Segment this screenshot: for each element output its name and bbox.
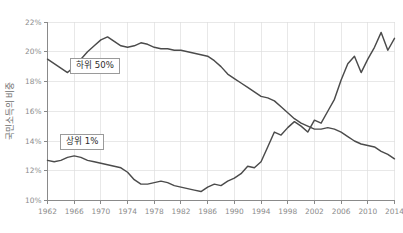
y-tick-label: 14%	[25, 137, 41, 146]
y-tick-label: 16%	[25, 107, 41, 116]
x-tick-label: 1962	[38, 207, 57, 216]
y-tick-label: 10%	[25, 196, 41, 205]
x-tick-label: 1994	[252, 207, 271, 216]
y-tick-label: 20%	[25, 47, 41, 56]
series-lines-group	[48, 32, 395, 191]
x-tick-label: 1970	[91, 207, 110, 216]
x-tick-label: 1974	[118, 207, 137, 216]
x-tick-label: 2006	[332, 207, 351, 216]
x-tick-label: 1966	[65, 207, 84, 216]
x-tick-label: 1986	[198, 207, 217, 216]
y-tick-label: 12%	[25, 166, 41, 175]
chart-canvas: 10%12%14%16%18%20%22% 196219661970197419…	[0, 0, 403, 233]
x-tick-label: 1990	[225, 207, 244, 216]
series-label-top-1: 상위 1%	[60, 134, 104, 150]
x-tick-label: 1998	[278, 207, 297, 216]
x-tick-label: 2010	[358, 207, 377, 216]
series-label-bottom-50: 하위 50%	[70, 58, 120, 74]
x-tick-label: 2002	[305, 207, 324, 216]
y-tick-labels-group: 10%12%14%16%18%20%22%	[25, 18, 41, 206]
y-tick-label: 18%	[25, 77, 41, 86]
income-share-line-chart: 10%12%14%16%18%20%22% 196219661970197419…	[0, 0, 403, 233]
x-tick-label: 1982	[172, 207, 191, 216]
x-tick-label: 1978	[145, 207, 164, 216]
y-gridlines-group	[48, 22, 395, 201]
x-tick-labels-group: 1962196619701974197819821986199019941998…	[38, 207, 403, 216]
series-line-top-1	[48, 32, 395, 191]
x-tick-label: 2014	[385, 207, 403, 216]
y-tick-label: 22%	[25, 18, 41, 27]
y-axis-title: 국민소득의 비중	[5, 82, 15, 141]
